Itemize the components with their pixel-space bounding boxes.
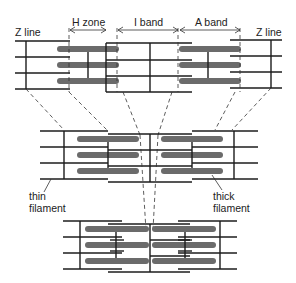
thick-filament-label-line2: filament xyxy=(213,203,250,215)
z-line-label-right: Z line xyxy=(256,27,282,39)
diagram-graphics xyxy=(0,0,296,283)
thick-filament-label-line1: thick xyxy=(213,191,235,203)
a-band-label: A band xyxy=(195,17,228,29)
z-line-label-left: Z line xyxy=(15,27,41,39)
sarcomere-contracted xyxy=(63,221,237,272)
h-zone-label: H zone xyxy=(72,17,105,29)
i-band-label: I band xyxy=(134,17,163,29)
sarcomere-diagram: Z line H zone I band A band Z line thin … xyxy=(0,0,296,283)
thin-filament-label-line2: filament xyxy=(29,203,66,215)
sarcomere-relaxed xyxy=(15,28,282,92)
thin-filament-label-line1: thin xyxy=(29,191,46,203)
projection-lines-upper xyxy=(26,88,271,135)
sarcomere-partial xyxy=(40,131,258,192)
